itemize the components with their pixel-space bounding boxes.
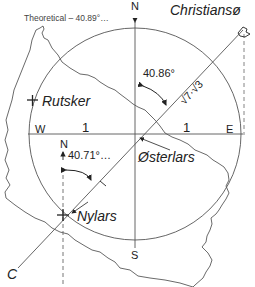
nylars-angle-arc — [66, 170, 91, 180]
center-angle-label: 40.86° — [143, 68, 175, 79]
compass-east-label: E — [226, 124, 233, 135]
rutsker-marker-icon — [27, 95, 38, 106]
nylars-label: Nylars — [77, 209, 117, 223]
bornholm-geometry-diagram: Theoretical – 40.89°… N S W E 1 1 Christ… — [0, 0, 255, 287]
island-outline — [5, 26, 229, 287]
diagonal-unit-tick — [100, 181, 106, 186]
east-unit-label: 1 — [183, 121, 190, 134]
diagram-title: Theoretical – 40.89°… — [24, 14, 109, 23]
christianso-label: Christiansø — [170, 3, 241, 17]
compass-north-label: N — [131, 1, 139, 12]
center-angle-arc — [143, 86, 166, 105]
rutsker-label: Rutsker — [42, 94, 90, 108]
diagram-graphics — [0, 0, 255, 287]
nylars-angle-label: 40.71°… — [68, 150, 111, 161]
nylars-north-label: N — [60, 139, 68, 150]
west-unit-label: 1 — [82, 121, 89, 134]
compass-south-label: S — [131, 250, 138, 261]
osterlars-label: Østerlars — [138, 150, 195, 164]
c-point-label: C — [7, 267, 17, 281]
nylars-marker-icon — [57, 209, 69, 221]
compass-west-label: W — [35, 124, 45, 135]
